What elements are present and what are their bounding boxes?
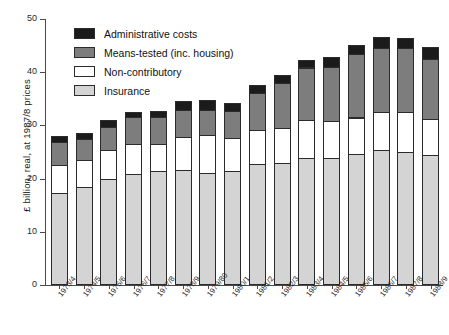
- y-axis-tick: 0: [40, 285, 46, 286]
- bar-segment-noncontrib: [125, 144, 142, 175]
- y-axis-tick-label: 0: [32, 279, 37, 289]
- legend-label: Insurance: [104, 85, 150, 97]
- bar-segment-means: [150, 117, 167, 145]
- bar-segment-means: [323, 67, 340, 122]
- bar-segment-noncontrib: [224, 138, 241, 171]
- bar-segment-admin: [249, 85, 266, 94]
- bar-1977-8: [150, 112, 167, 285]
- y-axis-tick: 10: [40, 232, 46, 233]
- legend-swatch-insurance: [74, 85, 95, 96]
- bar-segment-noncontrib: [422, 119, 439, 156]
- bar-1982-3: [274, 76, 291, 285]
- bar-1987-8: [397, 39, 414, 285]
- bar-segment-admin: [422, 47, 439, 60]
- legend-label: Means-tested (inc. housing): [104, 47, 234, 59]
- chart-legend: Administrative costsMeans-tested (inc. h…: [74, 24, 234, 100]
- bar-segment-noncontrib: [150, 144, 167, 173]
- legend-label: Administrative costs: [104, 28, 197, 40]
- legend-swatch-means: [74, 47, 95, 58]
- bar-segment-means: [373, 48, 390, 112]
- bar-segment-insurance: [274, 163, 291, 285]
- bar-1975-6: [100, 121, 117, 285]
- bar-segment-noncontrib: [397, 112, 414, 153]
- bar-segment-noncontrib: [51, 165, 68, 193]
- legend-item: Non-contributory: [74, 62, 234, 81]
- bar-segment-admin: [373, 37, 390, 50]
- bar-segment-insurance: [51, 193, 68, 286]
- y-axis-tick-label: 10: [27, 226, 37, 236]
- bar-segment-insurance: [224, 171, 241, 285]
- bar-segment-admin: [224, 103, 241, 112]
- bar-segment-means: [51, 142, 68, 166]
- y-axis-tick-label: 50: [27, 13, 37, 23]
- y-axis-tick-label: 30: [27, 119, 37, 129]
- bar-segment-insurance: [298, 158, 315, 285]
- bar-1973-4: [51, 137, 68, 285]
- bar-segment-insurance: [125, 174, 142, 285]
- bar-1985-6: [348, 46, 365, 285]
- bar-1976-7: [125, 113, 142, 285]
- bar-segment-insurance: [76, 187, 93, 285]
- bar-1983-4: [298, 61, 315, 286]
- bar-segment-admin: [100, 120, 117, 128]
- bar-segment-noncontrib: [348, 118, 365, 156]
- legend-swatch-admin: [74, 28, 95, 39]
- bar-segment-means: [422, 59, 439, 120]
- bar-segment-admin: [125, 112, 142, 118]
- legend-item: Means-tested (inc. housing): [74, 43, 234, 62]
- bar-1979-80: [199, 101, 216, 285]
- bar-segment-admin: [199, 100, 216, 111]
- legend-item: Insurance: [74, 81, 234, 100]
- bar-1980-1: [224, 104, 241, 285]
- bar-segment-admin: [274, 75, 291, 84]
- bar-segment-means: [348, 54, 365, 118]
- bar-segment-insurance: [422, 155, 439, 285]
- bar-1988-9: [422, 48, 439, 285]
- bar-segment-insurance: [150, 171, 167, 285]
- bar-segment-means: [100, 127, 117, 151]
- bar-segment-noncontrib: [76, 160, 93, 188]
- bar-segment-noncontrib: [298, 120, 315, 159]
- bar-segment-means: [274, 83, 291, 129]
- bar-segment-means: [175, 110, 192, 138]
- bar-segment-insurance: [249, 164, 266, 285]
- bar-segment-insurance: [348, 154, 365, 285]
- legend-item: Administrative costs: [74, 24, 234, 43]
- bar-segment-admin: [175, 101, 192, 111]
- bar-segment-means: [76, 139, 93, 161]
- bar-segment-means: [397, 48, 414, 113]
- bar-1974-5: [76, 134, 93, 285]
- bar-segment-insurance: [175, 170, 192, 285]
- bar-segment-noncontrib: [199, 135, 216, 174]
- y-axis-tick-label: 20: [27, 173, 37, 183]
- bar-segment-means: [199, 110, 216, 136]
- bar-segment-admin: [323, 57, 340, 68]
- bar-segment-noncontrib: [175, 137, 192, 171]
- bar-segment-insurance: [199, 173, 216, 285]
- bar-segment-admin: [150, 111, 167, 118]
- bar-segment-noncontrib: [274, 128, 291, 164]
- y-axis-tick: 40: [40, 72, 46, 73]
- bar-segment-admin: [397, 38, 414, 49]
- bar-segment-admin: [298, 60, 315, 69]
- legend-label: Non-contributory: [104, 66, 182, 78]
- bar-segment-means: [125, 117, 142, 145]
- bar-segment-noncontrib: [100, 150, 117, 180]
- bar-segment-admin: [76, 133, 93, 140]
- bar-segment-insurance: [100, 179, 117, 285]
- bar-segment-admin: [51, 136, 68, 143]
- y-axis-tick: 30: [40, 125, 46, 126]
- legend-swatch-noncontrib: [74, 66, 95, 77]
- bar-segment-noncontrib: [373, 112, 390, 151]
- bar-1978-9: [175, 102, 192, 285]
- bar-1984-5: [323, 58, 340, 285]
- bar-segment-means: [298, 68, 315, 122]
- bar-segment-insurance: [323, 158, 340, 285]
- bar-segment-noncontrib: [323, 121, 340, 159]
- y-axis-tick-label: 40: [27, 66, 37, 76]
- y-axis-tick: 20: [40, 179, 46, 180]
- bar-segment-insurance: [397, 152, 414, 285]
- bar-1986-7: [373, 38, 390, 285]
- bar-segment-admin: [348, 45, 365, 56]
